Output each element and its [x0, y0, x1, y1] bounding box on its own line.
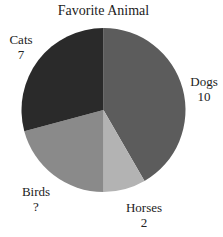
- label-cats-name: Cats: [4, 32, 38, 47]
- label-cats-value: 7: [4, 47, 38, 62]
- label-birds-name: Birds: [18, 184, 54, 199]
- label-cats: Cats 7: [4, 32, 38, 62]
- label-horses: Horses 2: [122, 200, 166, 230]
- label-horses-value: 2: [122, 215, 166, 230]
- label-horses-name: Horses: [122, 200, 166, 215]
- label-birds-value: ?: [18, 199, 54, 214]
- label-dogs: Dogs 10: [186, 74, 222, 104]
- label-dogs-value: 10: [186, 89, 222, 104]
- label-birds: Birds ?: [18, 184, 54, 214]
- label-dogs-name: Dogs: [186, 74, 222, 89]
